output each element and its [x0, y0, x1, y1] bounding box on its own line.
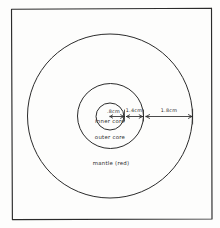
diagram-canvas: .8cm 1.4cm 1.8cm inner core outer core m… — [0, 0, 220, 228]
label-inner-core: inner core — [95, 118, 125, 124]
dimension-label-inner-core: .8cm — [107, 108, 120, 114]
label-mantle: mantle (red) — [93, 160, 130, 166]
earth-cross-section-figure: .8cm 1.4cm 1.8cm inner core outer core m… — [0, 0, 220, 228]
dimension-label-outer-core: 1.4cm — [126, 107, 142, 113]
dimension-label-mantle: 1.8cm — [161, 107, 177, 113]
label-outer-core: outer core — [95, 134, 126, 140]
